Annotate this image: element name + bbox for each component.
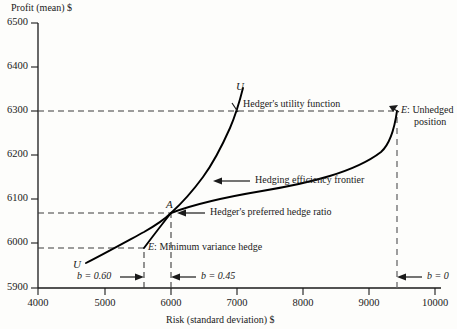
x-tick-label-7000: 7000 <box>221 297 253 309</box>
y-tick-label-6500: 6500 <box>0 16 28 28</box>
unhedged-text-line1: : Unhedged <box>407 104 453 115</box>
x-tick-label-6000: 6000 <box>155 297 187 309</box>
x-tick-marks <box>38 288 435 295</box>
hedge-ratio-label-0: b = 0 <box>427 270 449 282</box>
preferred-ratio-arrow <box>177 210 205 217</box>
chart-figure: Profit (mean) $ 6500 6400 6300 6200 6100… <box>0 0 457 329</box>
y-tick-marks <box>31 23 38 288</box>
x-axis-title: Risk (standard deviation) $ <box>166 314 275 326</box>
hedge-ratio-label-045: b = 0.45 <box>201 270 235 282</box>
utility-curve-label-top: U <box>236 80 244 93</box>
x-tick-label-4000: 4000 <box>22 297 54 309</box>
x-tick-label-10000: 10000 <box>417 297 453 309</box>
y-tick-label-6100: 6100 <box>0 192 28 204</box>
hedger-utility-curve <box>86 88 243 263</box>
y-tick-label-5900: 5900 <box>0 281 28 293</box>
x-tick-label-9000: 9000 <box>353 297 385 309</box>
utility-curve-label-bottom: U <box>73 258 81 271</box>
y-tick-label-6300: 6300 <box>0 104 28 116</box>
x-tick-label-5000: 5000 <box>89 297 121 309</box>
b-0-arrow <box>397 274 422 281</box>
min-variance-text: : Minimum variance hedge <box>154 241 262 252</box>
hedge-ratio-label-060: b = 0.60 <box>77 270 111 282</box>
annotation-unhedged-position: E: Unhedged position <box>401 104 454 128</box>
y-tick-label-6400: 6400 <box>0 60 28 72</box>
b-060-arrow <box>120 274 144 281</box>
annotation-efficiency-frontier: Hedging efficiency frontier <box>255 174 364 186</box>
annotation-minimum-variance-hedge: E: Minimum variance hedge <box>148 241 262 253</box>
point-label-a: A <box>166 198 173 211</box>
frontier-note-arrow <box>213 178 250 185</box>
b-045-arrow <box>171 274 196 281</box>
unhedged-text-line2: position <box>401 116 454 128</box>
annotation-preferred-hedge-ratio: Hedger's preferred hedge ratio <box>210 206 331 218</box>
annotation-utility-function: Hedger's utility function <box>243 98 340 110</box>
x-tick-label-8000: 8000 <box>287 297 319 309</box>
y-axis-title: Profit (mean) $ <box>11 2 72 14</box>
y-tick-label-6200: 6200 <box>0 148 28 160</box>
y-tick-label-6000: 6000 <box>0 236 28 248</box>
